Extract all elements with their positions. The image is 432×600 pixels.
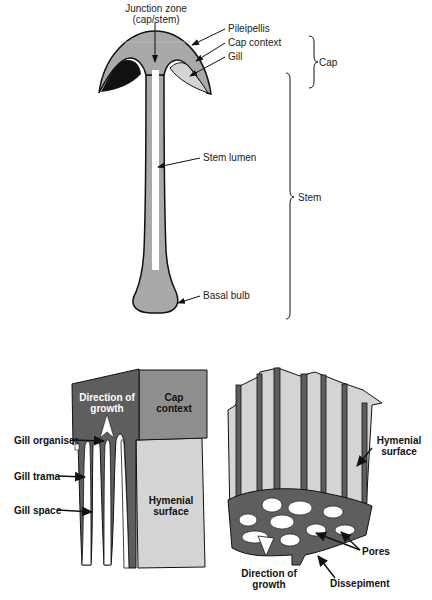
- junction-zone-line1: Junction zone: [120, 3, 192, 14]
- label-direction-of-growth-right: Direction of growth: [236, 568, 302, 590]
- cap-context-line1: Cap: [145, 392, 203, 403]
- gill-space-2: [104, 440, 111, 565]
- label-gill-organiser: Gill organiser: [14, 435, 78, 446]
- hymenial-right-line2: surface: [370, 446, 428, 457]
- junction-zone-line2: (cap/stem): [120, 14, 192, 25]
- label-dissepiment: Dissepiment: [330, 578, 389, 589]
- label-stem-bracket: Stem: [298, 192, 321, 203]
- label-gill-space: Gill space: [14, 505, 61, 516]
- label-gill-trama: Gill trama: [14, 471, 60, 482]
- label-pileipellis: Pileipellis: [228, 23, 270, 34]
- label-stem-lumen: Stem lumen: [203, 152, 256, 163]
- stem-lumen: [152, 70, 159, 270]
- label-basal-bulb: Basal bulb: [203, 290, 250, 301]
- cap-context-line2: context: [145, 403, 203, 414]
- hymenial-line1: Hymenial: [140, 495, 202, 506]
- pore-block: [228, 368, 382, 565]
- label-junction-zone: Junction zone (cap/stem): [120, 3, 192, 25]
- label-hymenial-surface-right: Hymenial surface: [370, 435, 428, 457]
- label-gill: Gill: [228, 51, 242, 62]
- hymenial-line2: surface: [140, 506, 202, 517]
- direction-line2: growth: [76, 403, 138, 414]
- label-hymenial-surface-left: Hymenial surface: [140, 495, 202, 517]
- stem-brace: [286, 73, 294, 319]
- direction-right-line2: growth: [236, 579, 302, 590]
- label-pores: Pores: [362, 546, 390, 557]
- cap-brace: [309, 36, 318, 88]
- label-cap-context: Cap context: [228, 37, 281, 48]
- label-direction-of-growth-left: Direction of growth: [76, 392, 138, 414]
- label-cap-bracket: Cap: [319, 57, 337, 68]
- direction-right-line1: Direction of: [236, 568, 302, 579]
- direction-line1: Direction of: [76, 392, 138, 403]
- label-cap-context-block: Cap context: [145, 392, 203, 414]
- hymenial-right-line1: Hymenial: [370, 435, 428, 446]
